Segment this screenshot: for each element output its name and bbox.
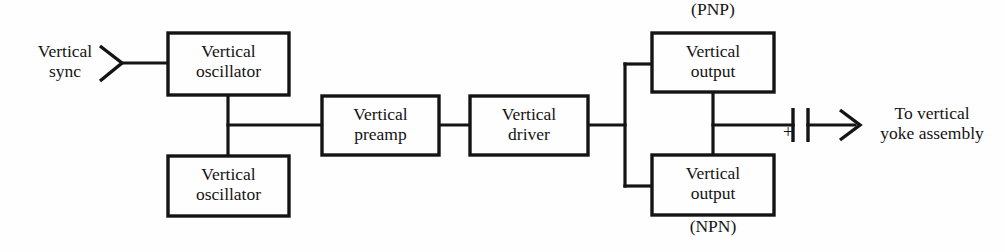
block-vertical-output-pnp [652, 33, 774, 92]
block-vertical-oscillator-2 [168, 156, 289, 216]
block-vertical-oscillator-1 [168, 33, 289, 95]
input-label-vertical-sync: Vertical sync [18, 42, 112, 82]
block-vertical-preamp [322, 96, 439, 155]
diagram-canvas [0, 0, 1005, 252]
capacitor-polarity-label: + [778, 122, 798, 143]
block-vertical-output-npn [652, 155, 774, 215]
block-vertical-driver [470, 96, 588, 155]
transistor-type-label-pnp: (PNP) [655, 0, 771, 20]
vertical-deflection-block-diagram: Vertical oscillator Vertical oscillator … [0, 0, 1005, 252]
transistor-type-label-npn: (NPN) [655, 217, 771, 237]
output-label-vertical-yoke-assembly: To vertical yoke assembly [866, 104, 998, 144]
